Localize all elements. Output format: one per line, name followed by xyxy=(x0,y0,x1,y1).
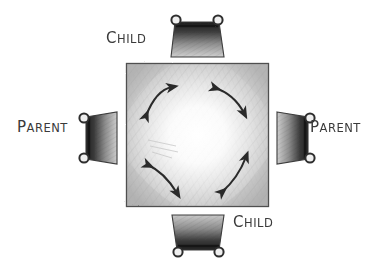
chair-right xyxy=(277,112,315,164)
table xyxy=(127,64,269,207)
chair-top xyxy=(171,15,224,57)
chair-bottom xyxy=(172,215,224,257)
label-child-top: CHILD xyxy=(106,28,146,47)
label-child-bottom-rest: HILD xyxy=(244,216,273,230)
label-child-top-cap: C xyxy=(106,29,117,47)
label-parent-right-cap: P xyxy=(310,118,320,136)
label-child-top-rest: HILD xyxy=(117,32,146,46)
chair-left xyxy=(79,112,117,164)
label-parent-right-rest: ARENT xyxy=(320,121,361,135)
sketch-drawing xyxy=(0,0,381,273)
label-parent-left-cap: P xyxy=(17,118,27,136)
label-child-bottom: CHILD xyxy=(233,212,273,231)
label-child-bottom-cap: C xyxy=(233,213,244,231)
sketch-canvas: CHILD CHILD PARENT PARENT xyxy=(0,0,381,273)
label-parent-right: PARENT xyxy=(310,117,361,136)
label-parent-left-rest: ARENT xyxy=(27,121,68,135)
label-parent-left: PARENT xyxy=(17,117,68,136)
